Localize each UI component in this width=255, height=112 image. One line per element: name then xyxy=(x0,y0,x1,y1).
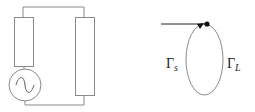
top-wire xyxy=(23,7,84,17)
source-resistor xyxy=(15,18,34,67)
label-gamma-s: Γs xyxy=(166,56,178,73)
load-resistor xyxy=(76,18,95,96)
diagram-canvas: Γs ΓL xyxy=(0,0,255,112)
gamma-ellipse xyxy=(186,24,223,95)
junction-dot xyxy=(204,21,209,26)
circuit xyxy=(9,7,95,105)
label-gamma-l: ΓL xyxy=(227,56,241,73)
